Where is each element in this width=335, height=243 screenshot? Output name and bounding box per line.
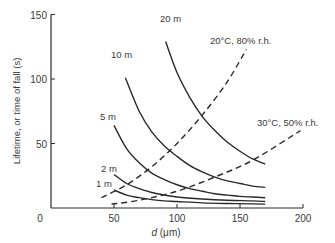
- curve-30-c-50-r-h-: [111, 131, 300, 205]
- x-tick-label: 100: [169, 213, 186, 224]
- lifetime-chart: 05010015020050100150 20 m10 m5 m2 m1 m20…: [0, 0, 335, 243]
- curve-20-m: [166, 42, 266, 165]
- label-20-m: 20 m: [160, 13, 181, 24]
- label-10-m: 10 m: [111, 49, 132, 60]
- label-20-c-80-r-h-: 20°C, 80% r.h.: [210, 35, 271, 46]
- x-tick-label: 50: [108, 213, 120, 224]
- y-axis-label: Lifetime, or time of fall (s): [11, 58, 22, 165]
- label-1-m: 1 m: [96, 178, 112, 189]
- x-axis-unit: (μm): [157, 227, 181, 238]
- curve-20-c-80-r-h-: [101, 49, 246, 197]
- y-tick-label: 150: [30, 10, 47, 21]
- label-5-m: 5 m: [100, 111, 116, 122]
- chart-canvas: 05010015020050100150 20 m10 m5 m2 m1 m20…: [0, 0, 335, 243]
- curve-labels: 20 m10 m5 m2 m1 m20°C, 80% r.h.30°C, 50%…: [96, 13, 318, 189]
- y-tick-label: 50: [36, 139, 48, 150]
- x-tick-label: 150: [232, 213, 249, 224]
- label-30-c-50-r-h-: 30°C, 50% r.h.: [257, 117, 318, 128]
- y-tick-label: 100: [30, 74, 47, 85]
- x-tick-label: 0: [37, 213, 43, 224]
- x-axis-label: d (μm): [151, 227, 180, 238]
- x-tick-label: 200: [295, 213, 312, 224]
- label-2-m: 2 m: [101, 163, 117, 174]
